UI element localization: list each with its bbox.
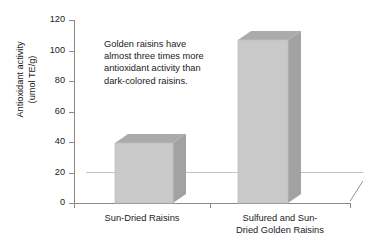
annotation-line-0: Golden raisins have	[104, 38, 224, 50]
x-axis-label-0-line1: Sun-Dried Raisins	[74, 212, 210, 224]
antioxidant-activity-bar-chart: Antioxidant activity (umol TE/g) 0204060…	[0, 0, 374, 251]
x-axis-label-sun-dried-raisins: Sun-Dried Raisins	[74, 212, 210, 224]
x-axis-label-1-line2: Dried Golden Raisins	[210, 224, 350, 236]
annotation-line-3: dark-colored raisins.	[104, 75, 224, 87]
x-axis-label-golden-raisins: Sulfured and Sun- Dried Golden Raisins	[210, 212, 350, 236]
chart-annotation: Golden raisins have almost three times m…	[104, 38, 224, 87]
annotation-line-2: antioxidant activity than	[104, 62, 224, 74]
x-axis-label-1-line1: Sulfured and Sun-	[210, 212, 350, 224]
annotation-line-1: almost three times more	[104, 50, 224, 62]
